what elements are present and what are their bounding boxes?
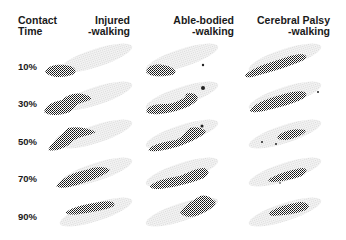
footprint-cerebral-palsy-90: [246, 192, 324, 233]
footprint-able-bodied-90: [143, 192, 221, 233]
footprint-cerebral-palsy-30: [246, 76, 324, 117]
footprint-able-bodied-30: [143, 76, 221, 117]
footprint-cerebral-palsy-10: [245, 38, 324, 79]
footprint-injured-70: [56, 152, 135, 193]
footprint-able-bodied-10: [143, 38, 221, 79]
footprint-able-bodied-50: [143, 114, 221, 155]
footprint-injured-30: [44, 76, 135, 117]
footprint-injured-10: [45, 38, 135, 79]
footprint-able-bodied-70: [143, 152, 221, 193]
footprint-injured-50: [48, 114, 135, 155]
footprint-injured-90: [57, 192, 135, 233]
pressure-map-grid: [0, 0, 346, 240]
footprint-cerebral-palsy-50: [246, 114, 324, 155]
footprint-cerebral-palsy-70: [246, 152, 324, 193]
